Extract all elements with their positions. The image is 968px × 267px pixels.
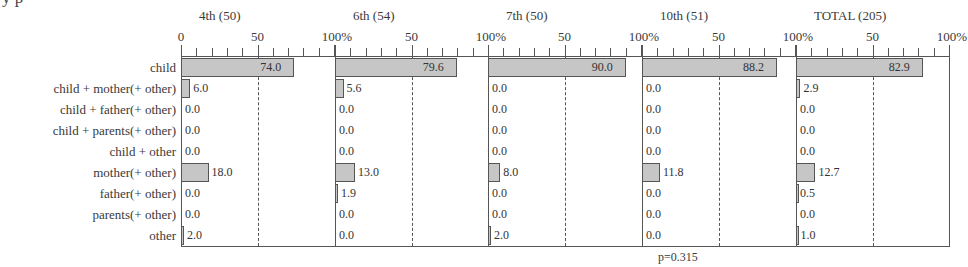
panel-total: TOTAL (205)50100%82.92.90.00.00.012.70.5… xyxy=(0,0,968,267)
value-label: 0.0 xyxy=(800,120,815,141)
axis-tick xyxy=(873,45,874,56)
value-label: 0.0 xyxy=(800,204,815,225)
value-label: 0.0 xyxy=(800,141,815,162)
tick-label: 100% xyxy=(937,29,967,45)
axis-tick xyxy=(949,45,950,56)
axis-tick xyxy=(811,48,812,56)
value-label: 2.9 xyxy=(803,78,818,99)
value-label: 0.0 xyxy=(800,99,815,120)
bar xyxy=(796,226,799,245)
value-label: 12.7 xyxy=(818,162,839,183)
value-label: 1.0 xyxy=(801,225,816,246)
axis-tick xyxy=(918,48,919,56)
axis-tick xyxy=(857,48,858,56)
axis-tick xyxy=(842,48,843,56)
value-label: 0.5 xyxy=(800,183,815,204)
axis-tick xyxy=(903,48,904,56)
reference-line-50 xyxy=(873,57,874,246)
axis-tick xyxy=(796,45,797,56)
value-label: 82.9 xyxy=(889,57,910,78)
p-value-annotation: p=0.315 xyxy=(658,250,698,265)
panel-title: TOTAL (205) xyxy=(814,8,886,24)
axis-tick xyxy=(934,48,935,56)
axis-tick xyxy=(888,48,889,56)
axis-tick xyxy=(827,48,828,56)
panel-right-border xyxy=(949,56,950,246)
bar xyxy=(796,163,815,182)
bar xyxy=(796,184,799,203)
bar xyxy=(796,79,800,98)
tick-label: 50 xyxy=(866,29,879,45)
